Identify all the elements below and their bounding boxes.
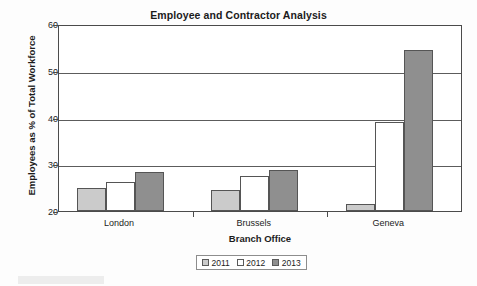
plot-area [58, 25, 462, 212]
legend-swatch-icon-2011 [202, 259, 209, 266]
x-axis-category-label-london: London [104, 218, 134, 228]
x-axis-title: Branch Office [58, 233, 462, 244]
x-axis-tick-mark [327, 212, 328, 217]
x-axis-category-labels: LondonBrusselsGeneva [58, 218, 462, 232]
x-axis-category-label-geneva: Geneva [373, 218, 405, 228]
bar-geneva-2013 [404, 50, 433, 211]
bar-chart-figure: Employee and Contractor Analysis Employe… [0, 0, 477, 286]
legend-label-2013: 2013 [282, 258, 301, 268]
chart-legend: 201120122013 [196, 255, 307, 270]
bars-layer [59, 26, 461, 211]
x-axis-category-label-brussels: Brussels [236, 218, 271, 228]
bar-london-2013 [135, 172, 164, 211]
legend-entry-2011: 2011 [202, 258, 230, 268]
bar-geneva-2012 [375, 122, 404, 211]
bar-geneva-2011 [346, 204, 375, 211]
x-axis-tick-mark [193, 212, 194, 217]
bar-london-2011 [77, 188, 106, 211]
bar-brussels-2012 [240, 176, 269, 211]
bar-london-2012 [106, 182, 135, 211]
y-axis-tick-group: 2030405060 [26, 25, 58, 212]
legend-label-2012: 2012 [246, 258, 265, 268]
legend-label-2011: 2011 [212, 258, 230, 268]
bar-brussels-2013 [269, 170, 298, 211]
bar-brussels-2011 [211, 190, 240, 211]
legend-swatch-icon-2013 [272, 259, 279, 266]
scan-artifact [18, 276, 104, 284]
chart-title: Employee and Contractor Analysis [0, 9, 477, 21]
legend-entry-2012: 2012 [237, 258, 265, 268]
legend-entry-2013: 2013 [272, 258, 300, 268]
legend-swatch-icon-2012 [237, 259, 244, 266]
